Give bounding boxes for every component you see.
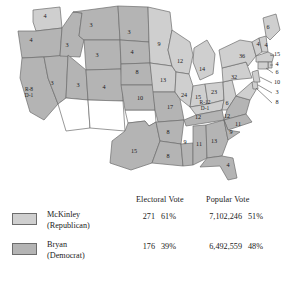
state-wyoming [84, 40, 121, 70]
state-vote-label-minnesota: 9 [157, 40, 160, 47]
state-vote-label-washington: 4 [43, 12, 46, 19]
state-vote-label-connecticut: 6 [275, 68, 278, 75]
bryan-popular-pct: 48% [248, 242, 263, 251]
state-vote-label-arkansas: 8 [166, 128, 169, 135]
state-vote-label-ohio: 23 [211, 88, 217, 95]
territory-new-mexico [88, 100, 125, 131]
state-vote-label-nevada: 3 [50, 79, 53, 86]
bryan-popular-votes: 6,492,559 [194, 242, 242, 251]
legend-candidate-mckinley: McKinley (Republican) [47, 210, 131, 231]
state-minnesota [148, 7, 172, 66]
mckinley-popular-votes: 7,102,246 [194, 212, 242, 221]
state-vote-label-missouri: 17 [167, 103, 173, 110]
state-michigan [193, 40, 215, 80]
state-vote-label-south-dakota: 4 [130, 48, 133, 55]
state-vote-label-north-dakota: 3 [127, 28, 130, 35]
state-south-dakota [120, 40, 150, 64]
mckinley-electoral-votes: 271 [133, 212, 155, 221]
state-vote-label-maine: 6 [266, 23, 269, 30]
state-vote-label-idaho: 3 [65, 41, 68, 48]
state-vote-label-louisiana: 8 [166, 152, 169, 159]
state-vote-label-virginia: 12 [224, 112, 230, 119]
bryan-electoral-votes: 176 [133, 242, 155, 251]
state-oregon [18, 28, 62, 58]
legend-swatch-democrat [12, 243, 37, 255]
state-washington [33, 7, 62, 31]
state-vote-label-iowa: 13 [160, 76, 166, 83]
state-vote-label-montana: 3 [89, 21, 92, 28]
legend-header-electoral: Electoral Vote [136, 195, 184, 204]
candidate-name: Bryan [47, 240, 67, 249]
state-vote-label-kentucky: R-12 [200, 99, 211, 105]
state-vote-label-alabama: 11 [196, 140, 202, 147]
map-states [18, 6, 280, 180]
state-connecticut [258, 62, 268, 69]
candidate-name: McKinley [47, 210, 80, 219]
map-legend: Electoral Vote Popular Vote McKinley (Re… [0, 190, 286, 281]
state-vote-label-vermont: 4 [256, 40, 259, 47]
state-utah [66, 55, 88, 100]
legend-swatch-republican [12, 213, 37, 225]
state-vote-label-new-york: 36 [239, 52, 245, 59]
state-vote-label-south-carolina: 9 [229, 128, 232, 135]
state-vote-label-georgia: 13 [211, 137, 217, 144]
state-vote-label-north-carolina: 11 [235, 120, 241, 127]
state-vote-label-tennessee: 12 [195, 113, 201, 120]
state-vote-label-california: D-1 [25, 92, 34, 98]
state-vote-label-mississippi: 9 [183, 138, 186, 145]
territory-arizona [58, 98, 90, 131]
state-vote-label-nebraska: 8 [135, 68, 138, 75]
mckinley-popular-pct: 51% [248, 212, 263, 221]
state-new-york [219, 40, 256, 68]
state-vote-label-delaware: 3 [275, 88, 278, 95]
state-arkansas [156, 120, 184, 144]
state-vote-label-massachusetts: 15 [274, 50, 280, 57]
state-florida [200, 156, 237, 180]
legend-row-bryan: Bryan (Democrat) 176 39% 6,492,559 48% [0, 242, 286, 272]
state-vote-label-florida: 4 [226, 161, 229, 168]
state-vote-label-wyoming: 3 [95, 51, 98, 58]
state-vote-label-new-hampshire: 4 [264, 41, 267, 48]
state-vote-label-illinois: 24 [181, 91, 187, 98]
mckinley-electoral-pct: 61% [161, 212, 176, 221]
state-vote-label-rhode-island: 4 [275, 60, 278, 67]
state-vote-label-kentucky: D-1 [201, 105, 210, 111]
state-new-jersey [252, 70, 260, 82]
state-north-dakota [118, 6, 149, 42]
candidate-party: (Democrat) [47, 251, 131, 262]
legend-header-popular: Popular Vote [206, 195, 249, 204]
state-vote-label-pennsylvania: 32 [231, 73, 237, 80]
state-vote-label-colorado: 4 [102, 83, 105, 90]
state-vote-label-new-jersey: 10 [274, 78, 280, 85]
state-vote-label-kansas: 10 [137, 94, 143, 101]
legend-row-mckinley: McKinley (Republican) 271 61% 7,102,246 … [0, 212, 286, 242]
state-vote-label-texas: 15 [131, 147, 137, 154]
state-vote-label-utah: 3 [76, 81, 79, 88]
state-vote-label-california: R-8 [25, 86, 33, 92]
state-vote-label-oregon: 4 [29, 36, 32, 43]
election-map-figure: 44R-8D-133333434810159131788122491415121… [0, 0, 286, 281]
us-electoral-map: 44R-8D-133333434810159131788122491415121… [0, 0, 286, 190]
state-mississippi [181, 143, 193, 166]
state-vote-label-maryland: 8 [275, 98, 278, 105]
legend-candidate-bryan: Bryan (Democrat) [47, 240, 131, 261]
candidate-party: (Republican) [47, 221, 131, 232]
state-vote-label-wisconsin: 12 [177, 57, 183, 64]
state-vote-label-michigan: 14 [199, 65, 205, 72]
state-vote-label-west-virginia: 6 [225, 99, 228, 106]
bryan-electoral-pct: 39% [161, 242, 176, 251]
